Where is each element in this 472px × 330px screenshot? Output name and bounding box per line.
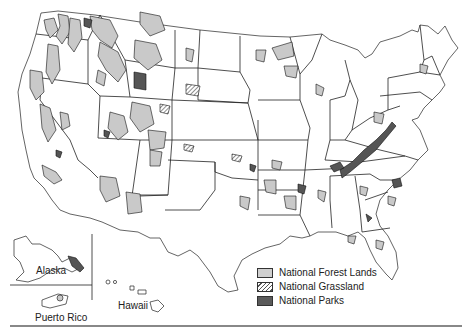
us-outline: [18, 11, 458, 292]
legend-item-parks: National Parks: [257, 294, 377, 307]
us-map: [0, 0, 472, 330]
hawaii-label: Hawaii: [118, 300, 148, 311]
forest-swatch-icon: [257, 268, 273, 278]
map-legend: National Forest Lands National Grassland…: [257, 266, 377, 308]
legend-label: National Forest Lands: [279, 267, 377, 278]
legend-label: National Grassland: [279, 281, 364, 292]
puerto-rico-label: Puerto Rico: [35, 312, 87, 323]
state-boundaries: [18, 11, 458, 292]
puerto-rico-inset: [42, 294, 68, 308]
alaska-label: Alaska: [36, 265, 66, 276]
park-swatch-icon: [257, 296, 273, 306]
legend-item-grassland: National Grassland: [257, 280, 377, 293]
legend-label: National Parks: [279, 295, 344, 306]
legend-item-forest: National Forest Lands: [257, 266, 377, 279]
grassland-swatch-icon: [257, 282, 273, 292]
bottom-divider: [10, 325, 462, 327]
